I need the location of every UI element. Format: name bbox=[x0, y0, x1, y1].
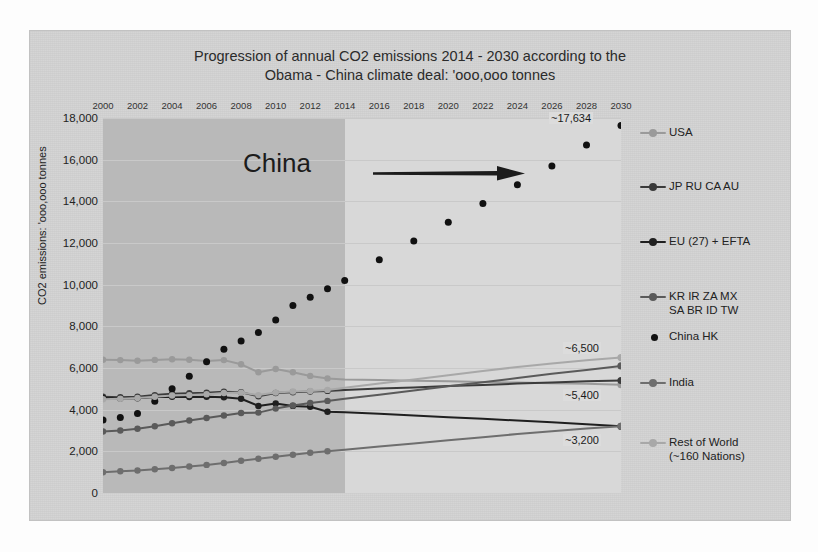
series-marker-6-2006 bbox=[203, 391, 209, 397]
x-tick-2002: 2002 bbox=[127, 100, 148, 111]
series-marker-0-2007 bbox=[221, 357, 227, 363]
series-marker-5-2011 bbox=[290, 452, 296, 458]
series-marker-3-2003 bbox=[152, 423, 158, 429]
series-line-0 bbox=[103, 359, 621, 384]
series-marker-5-2000 bbox=[103, 469, 106, 475]
series-marker-4-2011 bbox=[289, 302, 296, 309]
series-marker-6-2004 bbox=[169, 392, 175, 398]
x-tick-2014: 2014 bbox=[334, 100, 355, 111]
series-lines-svg bbox=[103, 118, 621, 493]
series-marker-5-2012 bbox=[307, 450, 313, 456]
legend-item-6[interactable]: Rest of World (~160 Nations) bbox=[640, 436, 745, 463]
legend-label: China HK bbox=[669, 330, 718, 344]
chart-title: Progression of annual CO2 emissions 2014… bbox=[150, 47, 670, 85]
series-marker-6-2007 bbox=[221, 390, 227, 396]
x-tick-2026: 2026 bbox=[541, 100, 562, 111]
legend-marker-icon bbox=[640, 127, 666, 139]
series-marker-4-2030 bbox=[618, 122, 622, 129]
series-marker-5-2004 bbox=[169, 465, 175, 471]
series-marker-4-2018 bbox=[410, 237, 417, 244]
y-tick-12000: 12,000 bbox=[63, 237, 98, 249]
series-marker-0-2008 bbox=[238, 361, 244, 367]
x-tick-2006: 2006 bbox=[196, 100, 217, 111]
y-tick-14000: 14,000 bbox=[63, 195, 98, 207]
series-marker-4-2010 bbox=[272, 317, 279, 324]
series-marker-6-2003 bbox=[152, 394, 158, 400]
legend-item-5[interactable]: India bbox=[640, 376, 694, 390]
series-marker-0-2004 bbox=[169, 356, 175, 362]
series-marker-3-2009 bbox=[255, 409, 261, 415]
series-marker-4-2005 bbox=[186, 373, 193, 380]
series-marker-4-2024 bbox=[514, 181, 521, 188]
series-marker-5-2008 bbox=[238, 458, 244, 464]
series-marker-4-2000 bbox=[103, 417, 107, 424]
series-endpoint-3 bbox=[617, 362, 621, 369]
legend-item-1[interactable]: JP RU CA AU bbox=[640, 180, 739, 194]
series-marker-3-2004 bbox=[169, 420, 175, 426]
y-axis-title: CO2 emissions: 'ooo,ooo tonnes bbox=[36, 146, 48, 305]
legend-marker-icon bbox=[640, 377, 666, 389]
china-annotation-label: China bbox=[243, 148, 311, 179]
series-marker-5-2010 bbox=[273, 454, 279, 460]
data-label-3200: ~3,200 bbox=[563, 434, 601, 446]
series-marker-5-2001 bbox=[117, 468, 123, 474]
legend-marker-icon bbox=[640, 236, 666, 248]
screenshot-root: Progression of annual CO2 emissions 2014… bbox=[0, 0, 818, 552]
x-tick-2012: 2012 bbox=[300, 100, 321, 111]
series-marker-6-2008 bbox=[238, 389, 244, 395]
series-marker-3-2006 bbox=[203, 415, 209, 421]
series-marker-6-2013 bbox=[324, 387, 330, 393]
y-tick-2000: 2,000 bbox=[69, 445, 98, 457]
series-marker-3-2011 bbox=[290, 402, 296, 408]
series-marker-4-2028 bbox=[583, 142, 590, 149]
series-marker-6-2001 bbox=[117, 396, 123, 402]
series-marker-3-2010 bbox=[273, 405, 279, 411]
series-marker-2-2008 bbox=[238, 396, 244, 402]
series-marker-5-2006 bbox=[203, 462, 209, 468]
legend-item-4[interactable]: China HK bbox=[640, 330, 718, 344]
y-tick-10000: 10,000 bbox=[63, 279, 98, 291]
series-marker-4-2002 bbox=[134, 410, 141, 417]
x-tick-2022: 2022 bbox=[472, 100, 493, 111]
legend-marker-icon bbox=[640, 331, 666, 343]
series-marker-3-2007 bbox=[221, 412, 227, 418]
x-tick-2018: 2018 bbox=[403, 100, 424, 111]
x-tick-2000: 2000 bbox=[92, 100, 113, 111]
series-marker-4-2013 bbox=[324, 285, 331, 292]
series-marker-0-2009 bbox=[255, 369, 261, 375]
series-marker-3-2002 bbox=[134, 426, 140, 432]
series-marker-4-2007 bbox=[220, 346, 227, 353]
series-marker-3-2008 bbox=[238, 410, 244, 416]
legend-label: KR IR ZA MX SA BR ID TW bbox=[669, 290, 738, 317]
series-marker-4-2020 bbox=[445, 219, 452, 226]
x-tick-2004: 2004 bbox=[161, 100, 182, 111]
legend-item-3[interactable]: KR IR ZA MX SA BR ID TW bbox=[640, 290, 738, 317]
series-marker-4-2014 bbox=[341, 277, 348, 284]
x-tick-2016: 2016 bbox=[369, 100, 390, 111]
series-marker-0-2003 bbox=[152, 357, 158, 363]
series-marker-0-2012 bbox=[307, 373, 313, 379]
data-label-5400: ~5,400 bbox=[563, 389, 601, 401]
x-tick-2028: 2028 bbox=[576, 100, 597, 111]
chart-legend: USAJP RU CA AUEU (27) + EFTAKR IR ZA MX … bbox=[640, 118, 790, 493]
series-marker-4-2026 bbox=[548, 162, 555, 169]
series-marker-0-2001 bbox=[117, 357, 123, 363]
series-marker-2-2013 bbox=[324, 409, 330, 415]
series-marker-6-2009 bbox=[255, 392, 261, 398]
series-marker-4-2006 bbox=[203, 358, 210, 365]
series-marker-5-2005 bbox=[186, 463, 192, 469]
series-marker-0-2005 bbox=[186, 357, 192, 363]
series-marker-4-2012 bbox=[307, 294, 314, 301]
y-tick-18000: 18,000 bbox=[63, 112, 98, 124]
legend-label: EU (27) + EFTA bbox=[669, 235, 750, 249]
series-marker-0-2011 bbox=[290, 369, 296, 375]
series-endpoint-6 bbox=[617, 354, 621, 361]
series-marker-4-2016 bbox=[376, 256, 383, 263]
legend-item-0[interactable]: USA bbox=[640, 126, 693, 140]
series-marker-5-2009 bbox=[255, 456, 261, 462]
china-growth-arrow-icon bbox=[373, 166, 525, 181]
legend-label: USA bbox=[669, 126, 693, 140]
legend-item-2[interactable]: EU (27) + EFTA bbox=[640, 235, 750, 249]
legend-marker-icon bbox=[640, 291, 666, 303]
series-marker-3-2013 bbox=[324, 398, 330, 404]
